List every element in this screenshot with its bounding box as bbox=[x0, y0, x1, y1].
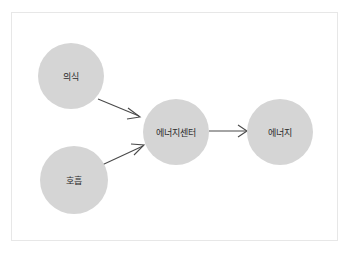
node-breathing[interactable]: 호흡 bbox=[40, 146, 108, 214]
node-energy[interactable]: 에너지 bbox=[247, 99, 313, 165]
node-energy-center-label: 에너지센터 bbox=[156, 128, 196, 138]
flowchart-graphic: 의식 호흡 에너지센터 에너지 bbox=[0, 0, 349, 256]
node-consciousness[interactable]: 의식 bbox=[38, 43, 104, 109]
node-consciousness-label: 의식 bbox=[63, 72, 79, 82]
diagram-canvas: 의식 호흡 에너지센터 에너지 bbox=[0, 0, 349, 256]
node-energy-center[interactable]: 에너지센터 bbox=[143, 99, 209, 165]
arrowhead-breathing bbox=[131, 144, 144, 155]
edge-consciousness-to-energy-center bbox=[98, 99, 140, 119]
edge-line-consciousness bbox=[98, 99, 139, 116]
edge-line-breathing bbox=[102, 146, 143, 165]
node-breathing-label: 호흡 bbox=[66, 175, 82, 186]
edge-breathing-to-energy-center bbox=[102, 144, 144, 165]
node-energy-label: 에너지 bbox=[268, 128, 292, 138]
edge-energy-center-to-energy bbox=[209, 125, 247, 137]
